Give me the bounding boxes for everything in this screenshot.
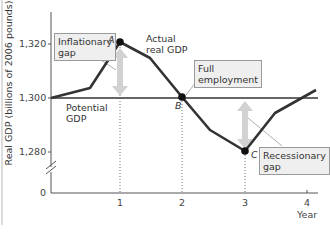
y-axis-label: Real GDP (billions of 2006 pounds) <box>3 26 14 166</box>
point-a-label: A <box>108 34 115 45</box>
point-c-label: C <box>251 149 258 160</box>
inflationary-gap-box: Inflationary gap <box>54 33 116 61</box>
recessionary-gap-arrow <box>237 101 253 149</box>
recessionary-gap-label-line2: gap <box>263 161 326 172</box>
x-tick-label-1: 1 <box>117 197 123 208</box>
actual-label-line1: Actual <box>146 33 187 44</box>
y-tick-label-1280: 1,280 <box>19 146 46 157</box>
y-tick-label-1320: 1,320 <box>19 38 46 49</box>
y-tick-label-0: 0 <box>40 187 46 198</box>
full-employment-label-line1: Full <box>198 63 258 74</box>
point-b-label: B <box>175 100 182 111</box>
x-tick-label-4: 4 <box>304 197 310 208</box>
full-employment-box: Full employment <box>194 60 262 88</box>
full-employment-label-line2: employment <box>198 74 258 85</box>
recessionary-gap-label-line1: Recessionary <box>263 150 326 161</box>
inflationary-gap-label-line2: gap <box>58 47 112 58</box>
potential-label-line2: GDP <box>66 113 108 124</box>
x-tick-label-2: 2 <box>179 197 185 208</box>
x-axis-label: Year <box>297 209 317 220</box>
actual-real-gdp-label: Actual real GDP <box>146 33 187 55</box>
potential-gdp-label: Potential GDP <box>66 102 108 124</box>
y-tick-label-1300: 1,300 <box>19 92 46 103</box>
x-tick-label-3: 3 <box>242 197 248 208</box>
potential-label-line1: Potential <box>66 102 108 113</box>
inflationary-gap-label-line1: Inflationary <box>58 36 112 47</box>
point-c-marker <box>241 147 249 155</box>
recessionary-gap-box: Recessionary gap <box>259 147 330 175</box>
point-a-marker <box>116 38 124 46</box>
actual-label-line2: real GDP <box>146 44 187 55</box>
